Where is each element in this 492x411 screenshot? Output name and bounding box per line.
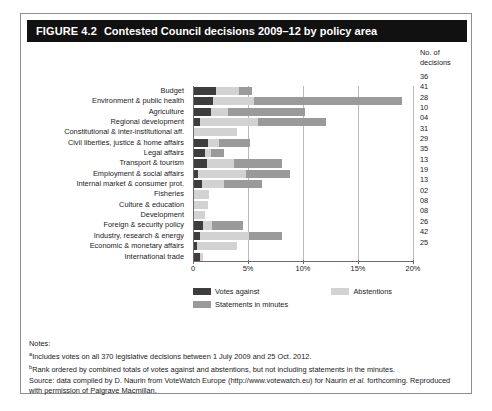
- bar-segment-statements: [246, 170, 290, 178]
- bar-row: [194, 201, 208, 209]
- y-axis-label: Internal market & consumer prot.: [27, 179, 187, 189]
- decisions-count-value: 41: [420, 82, 472, 92]
- source-italic: et al.: [349, 376, 365, 385]
- bar-segment-abstentions: [194, 211, 205, 219]
- legend-label-abstentions: Abstentions: [353, 287, 392, 296]
- decisions-count-column: No. of decisions 36412810043129351319130…: [420, 48, 472, 248]
- bar-row: [194, 149, 224, 157]
- bar-segment-abstentions: [208, 139, 219, 147]
- note-source: Source: data compiled by D. Naurin from …: [29, 376, 463, 396]
- y-axis-label: Economic & monetary affairs: [27, 241, 187, 251]
- y-axis-label: Transport & tourism: [27, 158, 187, 168]
- bar-row: [194, 97, 402, 105]
- x-axis-tick-labels: 05%10%15%20%: [193, 264, 433, 278]
- bar-row: [194, 87, 252, 95]
- decisions-header-line2: decisions: [420, 58, 472, 68]
- legend-swatch-votes-against-icon: [193, 288, 211, 295]
- note-a: aIncludes votes on all 370 legislative d…: [29, 349, 463, 362]
- bar-segment-votes-against: [194, 87, 216, 95]
- y-axis-label: Industry, research & energy: [27, 231, 187, 241]
- decisions-count-value: 13: [420, 175, 472, 185]
- bar-segment-statements: [249, 232, 282, 240]
- y-axis-label: Legal affairs: [27, 148, 187, 158]
- bar-segment-statements: [258, 118, 326, 126]
- y-axis-label: Culture & education: [27, 200, 187, 210]
- figure-notes: Notes: aIncludes votes on all 370 legisl…: [29, 339, 463, 396]
- bar-segment-abstentions: [194, 190, 209, 198]
- y-axis-label: Budget: [27, 86, 187, 96]
- bar-row: [194, 232, 282, 240]
- y-axis-label: Agriculture: [27, 107, 187, 117]
- bar-segment-statements: [211, 149, 224, 157]
- decisions-count-value: 13: [420, 155, 472, 165]
- bar-segment-abstentions: [207, 159, 233, 167]
- figure-container: FIGURE 4.2 Contested Council decisions 2…: [20, 13, 472, 394]
- y-axis-label: Fisheries: [27, 189, 187, 199]
- source-prefix: Source: data compiled by D. Naurin from …: [29, 376, 349, 385]
- legend-label-votes-against: Votes against: [215, 287, 259, 296]
- y-axis-label: International trade: [27, 252, 187, 262]
- legend-row-1: Votes against Abstentions: [193, 286, 423, 297]
- bar-row: [194, 253, 203, 261]
- bar-segment-abstentions: [211, 108, 229, 116]
- decisions-count-value: 19: [420, 165, 472, 175]
- bar-segment-votes-against: [194, 108, 211, 116]
- figure-title-bar: FIGURE 4.2 Contested Council decisions 2…: [27, 20, 467, 42]
- x-axis-tick-label: 20%: [406, 264, 421, 273]
- bar-segment-abstentions: [200, 118, 258, 126]
- bar-row: [194, 211, 205, 219]
- y-axis-label: Regional development: [27, 117, 187, 127]
- bar-row: [194, 139, 250, 147]
- bar-segment-votes-against: [194, 149, 205, 157]
- bar-segment-votes-against: [194, 221, 203, 229]
- x-axis-tick-label: 15%: [351, 264, 366, 273]
- bar-row: [194, 159, 282, 167]
- notes-heading: Notes:: [29, 339, 463, 349]
- decisions-count-value: 31: [420, 124, 472, 134]
- bar-segment-abstentions: [194, 201, 208, 209]
- bar-segment-abstentions: [203, 221, 212, 229]
- bar-segment-statements: [234, 159, 282, 167]
- chart-plot-wrapper: BudgetEnvironment & public healthAgricul…: [27, 48, 467, 326]
- decisions-count-value: 02: [420, 186, 472, 196]
- bar-segment-statements: [239, 87, 252, 95]
- x-axis-tick-label: 10%: [296, 264, 311, 273]
- bar-segment-statements: [254, 97, 401, 105]
- chart-gridline: [358, 86, 359, 262]
- decisions-value-list: 3641281004312935131913020808264225: [420, 72, 472, 248]
- bar-segment-votes-against: [194, 139, 208, 147]
- decisions-count-value: 42: [420, 227, 472, 237]
- legend-item-statements: Statements in minutes: [193, 300, 288, 309]
- bar-row: [194, 190, 209, 198]
- y-axis-label: Constitutional & inter-institutional aff…: [27, 127, 187, 137]
- y-axis-category-labels: BudgetEnvironment & public healthAgricul…: [27, 86, 187, 262]
- chart-plot-area: [193, 86, 413, 262]
- bar-segment-votes-against: [194, 159, 207, 167]
- note-b: bRank ordered by combined totals of vote…: [29, 362, 463, 375]
- bar-segment-abstentions: [198, 170, 245, 178]
- decisions-count-value: 35: [420, 144, 472, 154]
- legend-item-abstentions: Abstentions: [331, 287, 392, 296]
- decisions-count-value: 26: [420, 217, 472, 227]
- bar-segment-votes-against: [194, 97, 213, 105]
- decisions-count-value: 08: [420, 196, 472, 206]
- bar-row: [194, 242, 237, 250]
- figure-number: FIGURE 4.2: [36, 25, 97, 37]
- bar-segment-statements: [228, 108, 305, 116]
- bar-segment-abstentions: [202, 180, 224, 188]
- legend-row-2: Statements in minutes: [193, 299, 423, 310]
- x-axis-tick-label: 0: [191, 264, 195, 273]
- bar-row: [194, 170, 290, 178]
- decisions-count-value: 36: [420, 72, 472, 82]
- y-axis-label: Foreign & security policy: [27, 220, 187, 230]
- bar-segment-abstentions: [216, 87, 239, 95]
- x-axis-tick-label: 5%: [243, 264, 254, 273]
- y-axis-label: Environment & public health: [27, 96, 187, 106]
- decisions-count-value: 28: [420, 93, 472, 103]
- bar-segment-abstentions: [213, 97, 255, 105]
- decisions-count-value: 25: [420, 238, 472, 248]
- bar-row: [194, 118, 326, 126]
- bar-row: [194, 180, 262, 188]
- legend-swatch-abstentions-icon: [331, 288, 349, 295]
- bar-segment-statements: [219, 139, 250, 147]
